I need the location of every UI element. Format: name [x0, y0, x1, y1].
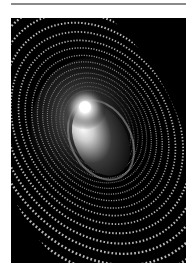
vortex-graphic [11, 18, 186, 263]
top-divider [11, 3, 186, 5]
binary-vortex-image [11, 18, 186, 263]
